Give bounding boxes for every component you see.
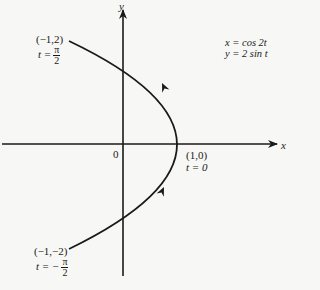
- point-top-coord: (−1,2): [36, 33, 63, 45]
- point-bottom-param: t = −π2: [36, 257, 68, 278]
- param-prefix: t = −: [36, 260, 59, 272]
- fraction-denominator: 2: [61, 268, 68, 278]
- point-vertex-param: t = 0: [186, 161, 207, 173]
- fraction-denominator: 2: [53, 56, 60, 66]
- point-vertex-coord: (1,0): [186, 149, 207, 161]
- y-axis-label: y: [119, 0, 124, 12]
- direction-arrow-icon: [158, 81, 169, 93]
- origin-label: 0: [113, 148, 119, 160]
- point-top-param: t =π2: [38, 45, 60, 66]
- equation-y: y = 2 sin t: [225, 48, 268, 60]
- fraction: π2: [53, 45, 60, 66]
- x-axis-label: x: [281, 139, 286, 151]
- param-prefix: t =: [38, 48, 51, 60]
- fraction: π2: [61, 257, 68, 278]
